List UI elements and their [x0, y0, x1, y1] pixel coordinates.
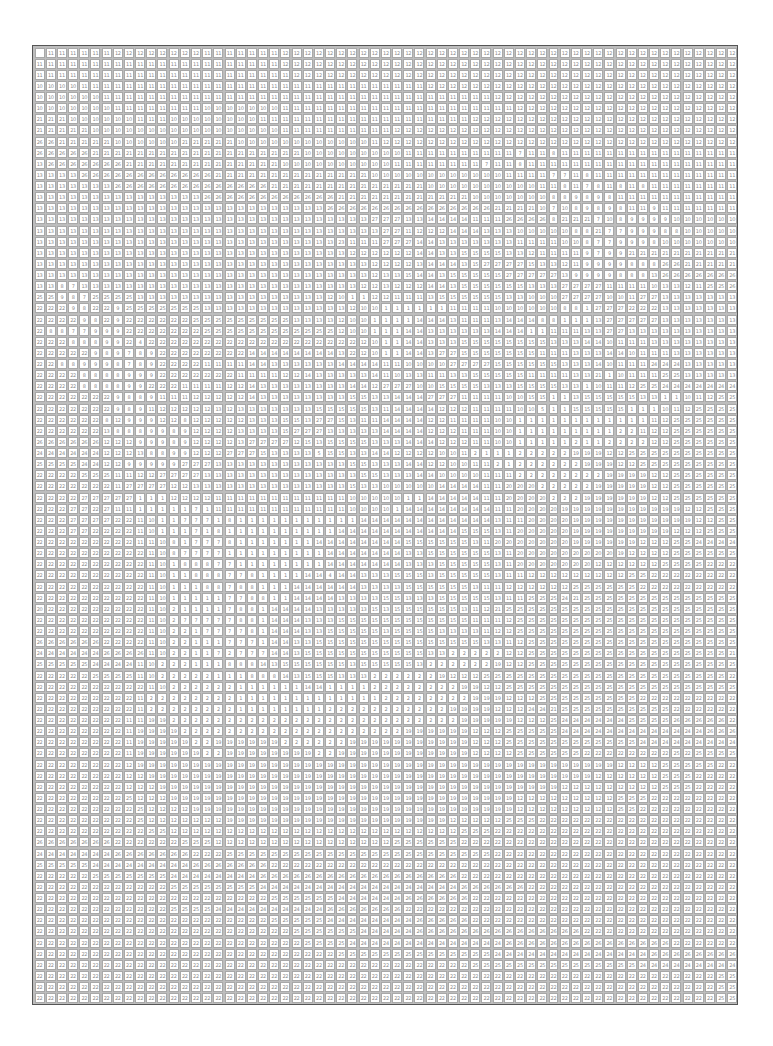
- grid-cell[interactable]: 15: [459, 270, 469, 280]
- grid-cell[interactable]: 11: [135, 715, 145, 725]
- grid-cell[interactable]: 13: [336, 214, 346, 224]
- grid-cell[interactable]: 12: [493, 626, 503, 636]
- grid-cell[interactable]: 13: [102, 203, 112, 213]
- grid-cell[interactable]: 11: [537, 370, 547, 380]
- grid-cell[interactable]: 13: [314, 604, 324, 614]
- grid-cell[interactable]: 24: [470, 938, 480, 948]
- grid-cell[interactable]: 14: [459, 504, 469, 514]
- grid-cell[interactable]: 13: [213, 404, 223, 414]
- grid-cell[interactable]: 10: [381, 504, 391, 514]
- grid-cell[interactable]: 11: [180, 381, 190, 391]
- grid-cell[interactable]: 13: [716, 370, 726, 380]
- grid-cell[interactable]: 19: [347, 782, 357, 792]
- grid-cell[interactable]: 13: [180, 259, 190, 269]
- grid-cell[interactable]: 11: [247, 92, 257, 102]
- grid-cell[interactable]: 14: [269, 615, 279, 625]
- grid-cell[interactable]: 13: [35, 237, 45, 247]
- grid-cell[interactable]: 10: [526, 303, 536, 313]
- grid-cell[interactable]: 22: [571, 882, 581, 892]
- grid-cell[interactable]: 9: [180, 448, 190, 458]
- grid-cell[interactable]: 24: [683, 381, 693, 391]
- grid-cell[interactable]: 22: [146, 949, 156, 959]
- grid-cell[interactable]: 2: [336, 704, 346, 714]
- grid-cell[interactable]: 22: [616, 993, 626, 1003]
- grid-cell[interactable]: 13: [247, 237, 257, 247]
- grid-cell[interactable]: 25: [604, 704, 614, 714]
- grid-cell[interactable]: 9: [571, 270, 581, 280]
- grid-cell[interactable]: 15: [493, 337, 503, 347]
- grid-cell[interactable]: 13: [582, 359, 592, 369]
- grid-cell[interactable]: 19: [381, 815, 391, 825]
- grid-cell[interactable]: 11: [370, 92, 380, 102]
- grid-cell[interactable]: 15: [392, 648, 402, 658]
- grid-cell[interactable]: 25: [638, 604, 648, 614]
- grid-cell[interactable]: 11: [683, 170, 693, 180]
- grid-cell[interactable]: 25: [604, 582, 614, 592]
- grid-cell[interactable]: 21: [403, 192, 413, 202]
- grid-cell[interactable]: 19: [236, 782, 246, 792]
- grid-cell[interactable]: 19: [403, 760, 413, 770]
- grid-cell[interactable]: 19: [414, 804, 424, 814]
- grid-cell[interactable]: 13: [336, 270, 346, 280]
- grid-cell[interactable]: 14: [336, 526, 346, 536]
- grid-cell[interactable]: 15: [403, 648, 413, 658]
- grid-cell[interactable]: 27: [247, 448, 257, 458]
- grid-cell[interactable]: 13: [90, 281, 100, 291]
- grid-cell[interactable]: 26: [124, 849, 134, 859]
- grid-cell[interactable]: 24: [716, 737, 726, 747]
- grid-cell[interactable]: 12: [537, 715, 547, 725]
- grid-cell[interactable]: 25: [549, 648, 559, 658]
- grid-cell[interactable]: 10: [526, 226, 536, 236]
- grid-cell[interactable]: 15: [504, 337, 514, 347]
- grid-cell[interactable]: 13: [269, 415, 279, 425]
- grid-cell[interactable]: 22: [727, 849, 737, 859]
- grid-cell[interactable]: 15: [336, 626, 346, 636]
- grid-cell[interactable]: 1: [202, 659, 212, 669]
- grid-cell[interactable]: 27: [392, 381, 402, 391]
- grid-cell[interactable]: 13: [381, 626, 391, 636]
- grid-cell[interactable]: 1: [593, 437, 603, 447]
- grid-cell[interactable]: 14: [258, 359, 268, 369]
- grid-cell[interactable]: 25: [79, 860, 89, 870]
- grid-cell[interactable]: 22: [727, 570, 737, 580]
- grid-cell[interactable]: 22: [90, 804, 100, 814]
- grid-cell[interactable]: 21: [370, 192, 380, 202]
- grid-cell[interactable]: 25: [459, 849, 469, 859]
- grid-cell[interactable]: 25: [705, 671, 715, 681]
- grid-cell[interactable]: 13: [727, 303, 737, 313]
- grid-cell[interactable]: 12: [459, 70, 469, 80]
- grid-cell[interactable]: 12: [504, 81, 514, 91]
- grid-cell[interactable]: 25: [727, 415, 737, 425]
- grid-cell[interactable]: 19: [481, 771, 491, 781]
- grid-cell[interactable]: 22: [46, 993, 56, 1003]
- grid-cell[interactable]: 24: [515, 949, 525, 959]
- grid-cell[interactable]: 11: [381, 404, 391, 414]
- grid-cell[interactable]: 11: [660, 148, 670, 158]
- grid-cell[interactable]: 12: [403, 137, 413, 147]
- grid-cell[interactable]: 21: [169, 148, 179, 158]
- grid-cell[interactable]: 15: [336, 404, 346, 414]
- grid-cell[interactable]: 22: [292, 337, 302, 347]
- grid-cell[interactable]: 1: [649, 404, 659, 414]
- grid-cell[interactable]: 2: [560, 470, 570, 480]
- grid-cell[interactable]: 25: [716, 448, 726, 458]
- grid-cell[interactable]: 22: [191, 359, 201, 369]
- grid-cell[interactable]: 13: [459, 326, 469, 336]
- grid-cell[interactable]: 8: [113, 359, 123, 369]
- grid-cell[interactable]: 22: [403, 960, 413, 970]
- grid-cell[interactable]: 20: [526, 481, 536, 491]
- grid-cell[interactable]: 22: [493, 860, 503, 870]
- grid-cell[interactable]: 26: [79, 170, 89, 180]
- grid-cell[interactable]: 14: [381, 526, 391, 536]
- grid-cell[interactable]: 25: [470, 949, 480, 959]
- grid-cell[interactable]: 19: [236, 748, 246, 758]
- grid-cell[interactable]: 11: [470, 437, 480, 447]
- grid-cell[interactable]: 11: [225, 48, 235, 58]
- grid-cell[interactable]: 1: [314, 559, 324, 569]
- grid-cell[interactable]: 25: [560, 704, 570, 714]
- grid-cell[interactable]: 25: [124, 671, 134, 681]
- grid-cell[interactable]: 21: [314, 181, 324, 191]
- grid-cell[interactable]: 14: [247, 381, 257, 391]
- grid-cell[interactable]: 1: [269, 682, 279, 692]
- grid-cell[interactable]: 19: [616, 548, 626, 558]
